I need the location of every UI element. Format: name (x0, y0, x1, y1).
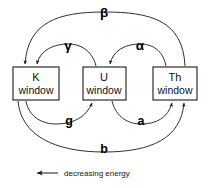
node-u-window-line1: U (100, 71, 108, 83)
node-th-window-line2: window (156, 84, 192, 96)
edge-g-path (26, 101, 92, 124)
node-k-window[interactable]: K window (13, 67, 59, 100)
node-u-window-line2: window (85, 84, 121, 96)
diagram-canvas: β γ α K window U window Th window (0, 0, 208, 188)
caption-decreasing-energy: decreasing energy (37, 169, 130, 178)
a-label: a (138, 114, 146, 128)
edge-gamma: γ (37, 38, 96, 66)
edge-beta: β (25, 5, 185, 66)
gamma-symbol: γ (64, 38, 72, 53)
node-u-window[interactable]: U window (83, 67, 126, 100)
edge-beta-path (25, 12, 185, 66)
node-k-window-line1: K (32, 71, 40, 83)
b-label: b (100, 142, 108, 156)
beta-symbol: β (100, 5, 108, 20)
node-th-window-line1: Th (169, 71, 182, 83)
edge-b: b (18, 101, 184, 156)
g-label: g (65, 114, 73, 128)
edge-alpha: α (110, 38, 166, 66)
node-k-window-line2: window (17, 84, 53, 96)
node-th-window[interactable]: Th window (153, 67, 197, 100)
caption-text: decreasing energy (64, 169, 130, 178)
edge-a: a (112, 101, 172, 128)
edge-g: g (26, 101, 92, 128)
alpha-symbol: α (136, 38, 145, 53)
diagram-svg: β γ α K window U window Th window (0, 0, 208, 188)
